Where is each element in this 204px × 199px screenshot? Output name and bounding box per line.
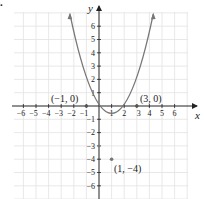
x-tick-labels: −6 −5 −4 −3 −2 −1 1 2 3 4 5 6: [17, 109, 177, 118]
label-vertex: (1, −4): [114, 163, 141, 175]
svg-text:−3: −3: [55, 109, 64, 118]
curve-arrow-left-icon: [68, 13, 73, 20]
svg-text:4: 4: [91, 49, 95, 58]
point-vertex: [110, 157, 114, 161]
svg-text:2: 2: [122, 109, 126, 118]
label-root-left: (−1, 0): [51, 93, 78, 105]
x-axis-label: x: [194, 109, 200, 121]
svg-text:5: 5: [160, 109, 164, 118]
axes: [12, 6, 197, 199]
svg-text:−1: −1: [86, 115, 95, 124]
y-axis-label: y: [87, 2, 93, 14]
parabola-graph: −6 −5 −4 −3 −2 −1 1 2 3 4 5 6 6 5 4 3 2 …: [0, 0, 204, 199]
label-root-right: (3, 0): [140, 93, 162, 105]
svg-text:2: 2: [91, 75, 95, 84]
svg-text:3: 3: [137, 109, 141, 118]
svg-text:−2: −2: [86, 128, 95, 137]
svg-text:−5: −5: [86, 168, 95, 177]
svg-text:−4: −4: [86, 155, 95, 164]
svg-text:4: 4: [147, 109, 151, 118]
svg-text:3: 3: [91, 62, 95, 71]
svg-text:−6: −6: [86, 182, 95, 191]
svg-text:−3: −3: [86, 142, 95, 151]
point-root-right: [135, 104, 139, 108]
svg-text:6: 6: [173, 109, 177, 118]
svg-text:6: 6: [91, 22, 95, 31]
svg-text:−6: −6: [17, 109, 26, 118]
svg-text:−2: −2: [67, 109, 76, 118]
svg-text:−4: −4: [42, 109, 51, 118]
point-y-intercept: [98, 145, 101, 148]
curve-arrow-right-icon: [151, 13, 156, 20]
svg-text:−5: −5: [29, 109, 38, 118]
point-root-left: [85, 104, 89, 108]
svg-text:5: 5: [91, 35, 95, 44]
